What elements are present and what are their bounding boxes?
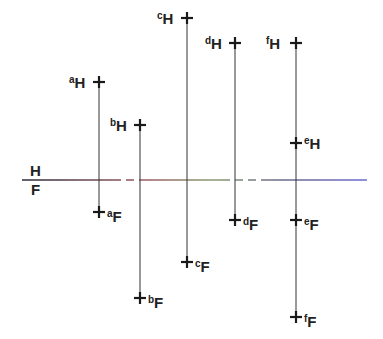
point-b-h-label: bH — [110, 117, 127, 134]
point-c-f-label: cF — [195, 258, 210, 275]
point-f-h-marker — [290, 37, 302, 49]
point-e-h-label: eH — [304, 135, 320, 152]
point-c-f-marker — [181, 256, 193, 268]
point-a-h-label: aH — [69, 74, 85, 91]
point-f-f-marker — [290, 311, 302, 323]
point-a-h-marker — [93, 76, 105, 88]
projection-diagram: aHaFbHbFcHcFdHdFeHeFfHfF H F — [0, 0, 383, 339]
point-d-h-label: dH — [205, 35, 222, 52]
point-d-f-marker — [229, 214, 241, 226]
fold-label-f: F — [31, 181, 40, 198]
point-d-f-label: dF — [243, 216, 258, 233]
points: aHaFbHbFcHcFdHdFeHeFfHfF — [69, 10, 320, 330]
point-e-h-marker — [290, 137, 302, 149]
point-f-h-label: fH — [266, 35, 280, 52]
point-d-h-marker — [229, 37, 241, 49]
point-b-f-label: bF — [148, 294, 163, 311]
point-b-f-marker — [134, 292, 146, 304]
point-f-f-label: fF — [304, 313, 317, 330]
diagram-canvas: aHaFbHbFcHcFdHdFeHeFfHfF H F — [0, 0, 383, 339]
point-e-f-marker — [290, 214, 302, 226]
fold-label-h: H — [30, 162, 41, 179]
point-c-h-label: cH — [157, 10, 173, 27]
point-a-f-marker — [93, 206, 105, 218]
projection-lines — [99, 18, 296, 317]
point-c-h-marker — [181, 12, 193, 24]
point-a-f-label: aF — [107, 208, 122, 225]
point-e-f-label: eF — [304, 216, 319, 233]
point-b-h-marker — [134, 119, 146, 131]
